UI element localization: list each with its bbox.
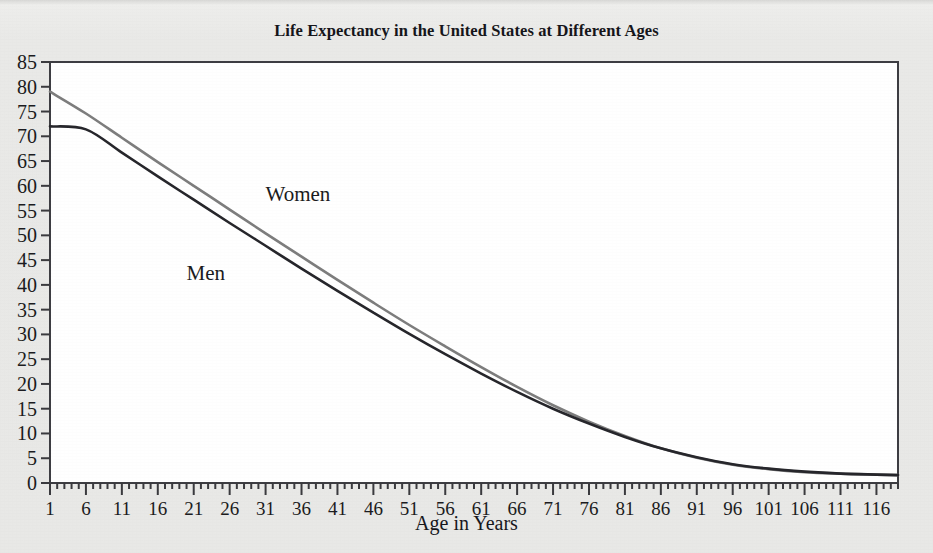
y-axis-tick-labels: 0510152025303540455055606570758085	[17, 51, 37, 494]
x-axis-ticks	[50, 483, 898, 495]
y-tick-label: 70	[17, 125, 37, 147]
y-tick-label: 30	[17, 323, 37, 345]
y-tick-label: 45	[17, 249, 37, 271]
y-tick-label: 35	[17, 299, 37, 321]
y-tick-label: 55	[17, 200, 37, 222]
y-tick-label: 50	[17, 224, 37, 246]
chart-page: Life Expectancy in the United States at …	[0, 0, 933, 553]
y-tick-label: 85	[17, 51, 37, 73]
y-tick-label: 15	[17, 398, 37, 420]
y-tick-label: 40	[17, 274, 37, 296]
chart-plot-area: 0510152025303540455055606570758085 16111…	[0, 0, 933, 553]
y-tick-label: 5	[27, 447, 37, 469]
y-tick-label: 0	[27, 472, 37, 494]
x-axis-title: Age in Years	[0, 512, 933, 535]
y-tick-label: 20	[17, 373, 37, 395]
plot-frame	[50, 62, 898, 483]
series-label-men: Men	[187, 261, 226, 285]
y-tick-label: 80	[17, 76, 37, 98]
y-tick-label: 65	[17, 150, 37, 172]
y-tick-label: 60	[17, 175, 37, 197]
y-tick-label: 75	[17, 101, 37, 123]
y-tick-label: 25	[17, 348, 37, 370]
y-axis-ticks	[41, 62, 50, 483]
y-tick-label: 10	[17, 422, 37, 444]
series-label-women: Women	[266, 182, 331, 206]
